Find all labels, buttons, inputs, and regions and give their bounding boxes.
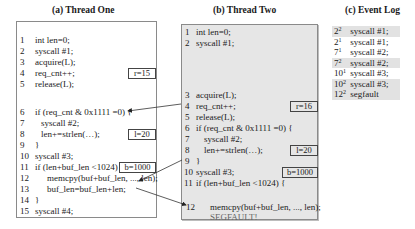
interleaving-arrows [0, 0, 415, 229]
arrow-t1-line13-to-t2-line12 [136, 188, 186, 205]
arrow-t2-line4-to-t1-line6 [128, 104, 181, 111]
arrow-t2-line11-to-t1-line12 [139, 160, 182, 181]
